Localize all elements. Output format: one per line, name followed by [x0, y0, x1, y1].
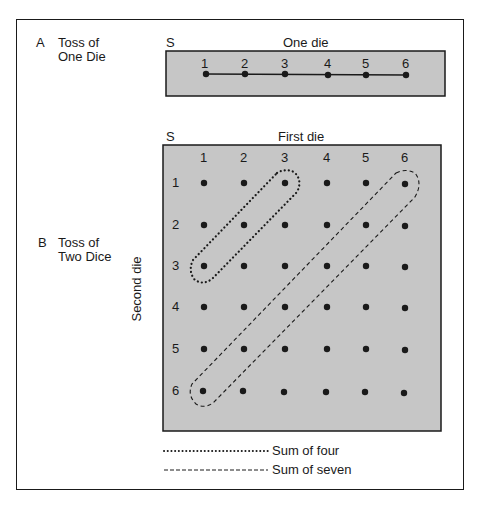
column-label-1: 1: [200, 151, 207, 165]
row-label-5: 5: [172, 342, 179, 356]
column-label-2: 2: [240, 151, 247, 165]
two-dice-panel: [163, 145, 441, 431]
column-label-6: 6: [401, 151, 408, 165]
row-label-6: 6: [172, 384, 179, 398]
column-label-3: 3: [281, 151, 288, 165]
row-label-3: 3: [172, 259, 179, 273]
one-die-label-6: 6: [402, 57, 409, 71]
legend-label-sum-of-four: Sum of four: [272, 444, 339, 458]
column-label-5: 5: [362, 151, 369, 165]
one-die-label-5: 5: [362, 57, 369, 71]
diagram-canvas: [0, 0, 482, 506]
legend-label-sum-of-seven: Sum of seven: [272, 463, 352, 477]
one-die-label-4: 4: [324, 57, 331, 71]
column-label-4: 4: [323, 151, 330, 165]
one-die-connector-line: [206, 74, 406, 75]
one-die-label-3: 3: [281, 57, 288, 71]
one-die-label-1: 1: [201, 57, 208, 71]
one-die-label-2: 2: [241, 57, 248, 71]
row-label-4: 4: [172, 300, 179, 314]
row-label-2: 2: [172, 218, 179, 232]
row-label-1: 1: [172, 176, 179, 190]
